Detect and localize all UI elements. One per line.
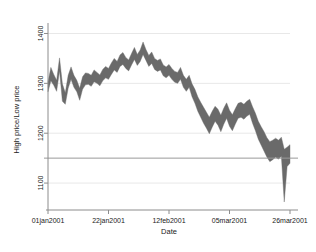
y-axis-ticks: [44, 33, 48, 183]
x-tick-label: 12feb2001: [152, 217, 185, 224]
x-axis-ticks: [48, 210, 290, 214]
y-tick-label: 1300: [38, 75, 45, 91]
y-axis-tick-labels: 1100120013001400: [38, 26, 45, 191]
x-tick-label: 22jan2001: [92, 217, 125, 225]
x-tick-label: 01jan2001: [32, 217, 65, 225]
plot-frame: 1100120013001400 01jan200122jan200112feb…: [8, 10, 308, 238]
x-axis-title: Date: [161, 227, 177, 236]
x-axis-tick-labels: 01jan200122jan200112feb200105mar200126ma…: [32, 217, 308, 225]
chart-figure: 1100120013001400 01jan200122jan200112feb…: [0, 0, 316, 252]
x-tick-label: 05mar2001: [212, 217, 248, 224]
high-low-band: [48, 42, 290, 202]
range-band-chart: 1100120013001400 01jan200122jan200112feb…: [8, 10, 308, 238]
price-band-area: [48, 42, 290, 202]
axis-lines: [46, 23, 298, 210]
y-tick-label: 1200: [38, 125, 45, 141]
y-tick-label: 1100: [38, 175, 45, 190]
y-axis-title: High price/Low price: [12, 86, 21, 154]
y-tick-label: 1400: [38, 26, 45, 42]
x-tick-label: 26mar2001: [272, 217, 308, 224]
gridlines: [48, 33, 290, 183]
